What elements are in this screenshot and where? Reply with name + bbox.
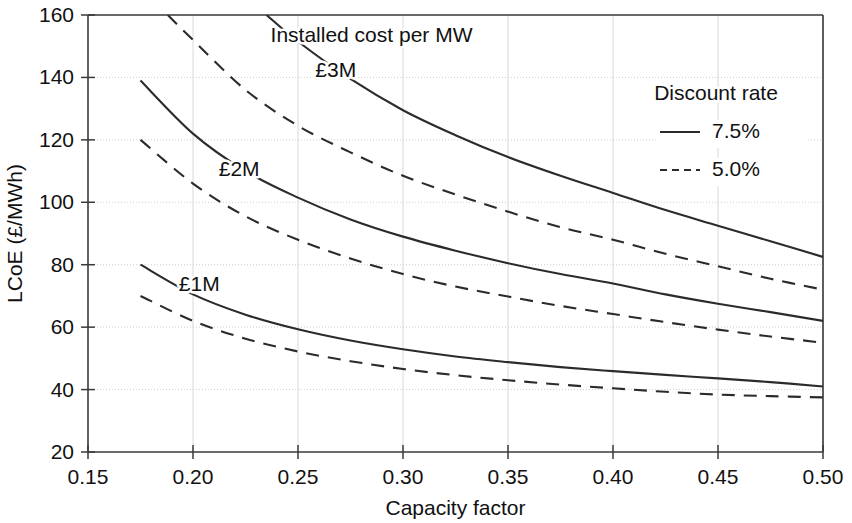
y-tick-label: 60 (51, 315, 74, 338)
chart-figure: 204060801001201401600.150.200.250.300.35… (0, 0, 852, 523)
y-tick-label: 40 (51, 378, 74, 401)
y-tick-label: 100 (39, 190, 74, 213)
series-line-gbp1M-7-5pct (141, 265, 824, 387)
y-tick-label: 80 (51, 253, 74, 276)
curve-annotations: Installed cost per MWInstalled cost per … (179, 23, 473, 296)
annotation-label: £3M (315, 58, 356, 81)
y-tick-label: 120 (39, 128, 74, 151)
series-line-gbp1M-5-0pct (141, 296, 824, 397)
y-tick-label: 160 (39, 3, 74, 26)
legend-label-7-5pct: 7.5% (712, 119, 760, 142)
legend: Discount rateDiscount rate7.5%5.0% (654, 81, 806, 186)
annotation-label: £1M (179, 272, 220, 295)
series-line-gbp2M-7-5pct (141, 81, 824, 321)
y-tick-label: 140 (39, 65, 74, 88)
x-tick-label: 0.20 (173, 465, 214, 488)
annotation-label: Installed cost per MW (271, 23, 473, 46)
tick-labels: 204060801001201401600.150.200.250.300.35… (39, 3, 843, 488)
annotation-label: £2M (219, 157, 260, 180)
legend-title: Discount rate (654, 81, 778, 104)
x-tick-label: 0.30 (383, 465, 424, 488)
legend-label-5-0pct: 5.0% (712, 157, 760, 180)
x-tick-label: 0.50 (803, 465, 844, 488)
x-tick-label: 0.45 (698, 465, 739, 488)
y-axis-title: LCoE (£/MWh) (3, 164, 26, 303)
x-tick-label: 0.25 (278, 465, 319, 488)
x-tick-label: 0.15 (68, 465, 109, 488)
x-tick-label: 0.40 (593, 465, 634, 488)
x-tick-label: 0.35 (488, 465, 529, 488)
data-series (141, 15, 824, 397)
x-axis-title: Capacity factor (385, 496, 525, 519)
y-tick-label: 20 (51, 440, 74, 463)
lcoe-capacity-factor-chart: 204060801001201401600.150.200.250.300.35… (0, 0, 852, 523)
